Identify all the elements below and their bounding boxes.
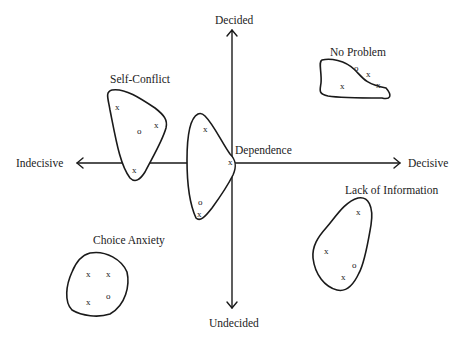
marker: x	[115, 103, 120, 112]
marker: o	[106, 292, 111, 301]
cluster-choice-anxiety-outline	[67, 252, 128, 316]
marker: o	[352, 261, 357, 270]
cluster-label-dependence: Dependence	[235, 145, 292, 157]
marker: x	[356, 208, 361, 217]
marker: x	[106, 270, 111, 279]
marker: x	[366, 70, 371, 79]
marker: o	[354, 64, 359, 73]
marker: x	[132, 166, 137, 175]
axis-label-decisive: Decisive	[408, 158, 448, 170]
marker: o	[198, 198, 203, 207]
marker: o	[137, 127, 142, 136]
axis-label-undecided: Undecided	[209, 318, 259, 330]
marker: x	[324, 247, 329, 256]
cluster-label-no-problem: No Problem	[330, 47, 386, 59]
cluster-label-choice-anxiety: Choice Anxiety	[93, 235, 165, 247]
marker: x	[197, 210, 202, 219]
cluster-label-lack-of-information: Lack of Information	[345, 185, 438, 197]
axis-label-indecisive: Indecisive	[16, 158, 63, 170]
marker: x	[203, 125, 208, 134]
diagram-canvas	[0, 0, 457, 339]
marker: x	[154, 121, 159, 130]
marker: x	[341, 273, 346, 282]
cluster-label-self-conflict: Self-Conflict	[110, 74, 170, 86]
axis-label-decided: Decided	[215, 15, 253, 27]
marker: x	[376, 81, 381, 90]
marker: x	[86, 298, 91, 307]
marker: x	[340, 82, 345, 91]
marker: x	[228, 158, 233, 167]
marker: x	[86, 270, 91, 279]
